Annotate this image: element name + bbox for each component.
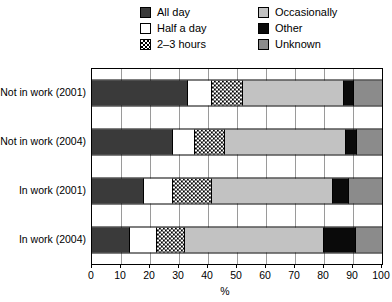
bar-segment-occ[interactable]	[243, 81, 345, 106]
bar-row-slot	[92, 167, 382, 216]
x-axis-title-text: %	[220, 285, 229, 297]
x-axis-tick	[265, 264, 266, 268]
x-axis-tick	[236, 264, 237, 268]
y-axis-slot: In work (2004)	[0, 214, 86, 263]
bar-rows	[92, 69, 382, 264]
bar-segment-half[interactable]	[173, 130, 195, 155]
legend-item-all-day[interactable]: All day	[140, 7, 258, 18]
bar-segment-hours[interactable]	[173, 178, 212, 203]
bar-segment-unknown[interactable]	[354, 81, 382, 106]
y-axis-slot: In work (2001)	[0, 166, 86, 215]
y-axis-labels: Not in work (2001) Not in work (2004) In…	[0, 68, 86, 263]
x-axis-tick	[120, 264, 121, 268]
legend-label-occasionally: Occasionally	[275, 7, 337, 18]
bar-segment-hours[interactable]	[212, 81, 242, 106]
legend-label-2-3-hours: 2–3 hours	[157, 39, 206, 50]
x-axis-tick-label: 50	[230, 269, 242, 281]
y-axis-slot: Not in work (2004)	[0, 117, 86, 166]
stacked-bar-chart: All day Occasionally Half a day Other 2–…	[0, 0, 392, 302]
legend-swatch-2-3-hours	[140, 39, 151, 50]
x-axis-tick-label: 100	[372, 269, 390, 281]
x-axis-tick-label: 30	[172, 269, 184, 281]
bar-segment-occ[interactable]	[225, 130, 345, 155]
legend-swatch-all-day	[140, 7, 151, 18]
legend-label-other: Other	[275, 23, 303, 34]
bar-segment-unknown[interactable]	[349, 178, 382, 203]
plot-area	[91, 68, 383, 265]
x-axis-tick	[352, 264, 353, 268]
bar-segment-allday[interactable]	[92, 178, 144, 203]
y-axis-label-in-work-2004: In work (2004)	[19, 233, 86, 245]
legend-label-unknown: Unknown	[275, 39, 321, 50]
legend-item-2-3-hours[interactable]: 2–3 hours	[140, 39, 258, 50]
bar-segment-occ[interactable]	[185, 227, 324, 252]
legend-item-unknown[interactable]: Unknown	[258, 39, 388, 50]
x-axis-tick-label: 0	[88, 269, 94, 281]
bar-segment-unknown[interactable]	[357, 130, 382, 155]
x-axis-tick-label: 20	[143, 269, 155, 281]
legend-label-all-day: All day	[157, 7, 190, 18]
x-axis-tick-label: 90	[346, 269, 358, 281]
x-axis-tick	[381, 264, 382, 268]
bar-segment-half[interactable]	[130, 227, 158, 252]
x-axis-tick-label: 80	[317, 269, 329, 281]
x-axis-tick	[149, 264, 150, 268]
bar-segment-half[interactable]	[144, 178, 173, 203]
x-axis-tick	[178, 264, 179, 268]
x-axis-title: %	[0, 285, 392, 297]
stacked-bar[interactable]	[92, 81, 382, 106]
bar-segment-half[interactable]	[188, 81, 213, 106]
x-axis-tick	[91, 264, 92, 268]
legend-item-half-a-day[interactable]: Half a day	[140, 23, 258, 34]
legend-item-occasionally[interactable]: Occasionally	[258, 7, 388, 18]
bar-segment-other[interactable]	[344, 81, 354, 106]
x-axis-tick-label: 40	[201, 269, 213, 281]
x-axis-labels: 0102030405060708090100	[0, 269, 392, 283]
bar-row-slot	[92, 215, 382, 264]
y-axis-label-in-work-2001: In work (2001)	[19, 184, 86, 196]
x-axis-tick	[323, 264, 324, 268]
x-axis-tick-label: 10	[114, 269, 126, 281]
bar-row-slot	[92, 69, 382, 118]
bar-segment-hours[interactable]	[157, 227, 185, 252]
y-axis-slot: Not in work (2001)	[0, 68, 86, 117]
bar-segment-allday[interactable]	[92, 130, 173, 155]
y-axis-label-not-in-work-2004: Not in work (2004)	[0, 135, 86, 147]
chart-legend: All day Occasionally Half a day Other 2–…	[140, 4, 388, 52]
stacked-bar[interactable]	[92, 178, 382, 203]
legend-swatch-occasionally	[258, 7, 269, 18]
bar-segment-other[interactable]	[346, 130, 358, 155]
stacked-bar[interactable]	[92, 227, 382, 252]
x-axis-tick	[294, 264, 295, 268]
bar-segment-hours[interactable]	[195, 130, 225, 155]
x-axis-tick	[207, 264, 208, 268]
legend-swatch-other	[258, 23, 269, 34]
bar-segment-unknown[interactable]	[356, 227, 382, 252]
x-axis-tick-label: 70	[288, 269, 300, 281]
bar-segment-allday[interactable]	[92, 81, 188, 106]
bar-segment-occ[interactable]	[212, 178, 332, 203]
bar-segment-other[interactable]	[333, 178, 349, 203]
legend-swatch-unknown	[258, 39, 269, 50]
x-axis-tick-label: 60	[259, 269, 271, 281]
legend-label-half-a-day: Half a day	[157, 23, 207, 34]
bar-segment-other[interactable]	[324, 227, 356, 252]
stacked-bar[interactable]	[92, 130, 382, 155]
bar-row-slot	[92, 118, 382, 167]
y-axis-label-not-in-work-2001: Not in work (2001)	[0, 86, 86, 98]
legend-item-other[interactable]: Other	[258, 23, 388, 34]
bar-segment-allday[interactable]	[92, 227, 130, 252]
legend-swatch-half-a-day	[140, 23, 151, 34]
